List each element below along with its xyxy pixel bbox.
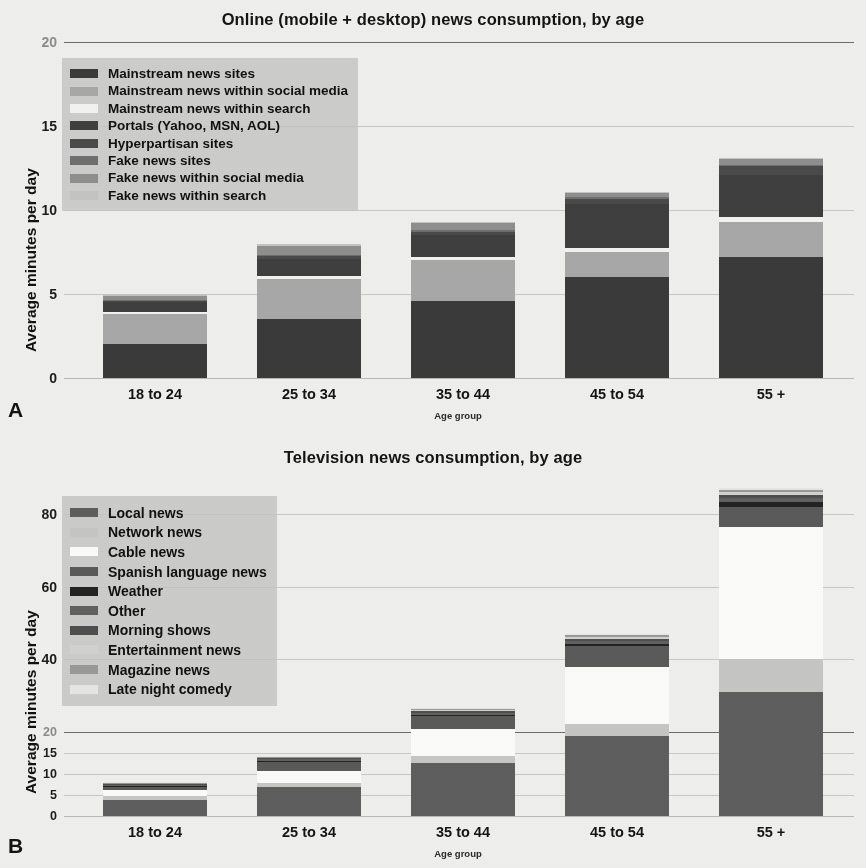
panel-b-segment [411, 729, 515, 732]
panel-a-online-news: Online (mobile + desktop) news consumpti… [0, 0, 866, 434]
panel-a-segment [257, 246, 361, 254]
panel-b-ytick-lower-15: 15 [43, 746, 57, 760]
panel-a-segment [719, 158, 823, 159]
panel-a-segment [719, 166, 823, 174]
panel-b-segment [565, 637, 669, 639]
panel-b-segment [719, 692, 823, 732]
panel-b-legend-item: Weather [70, 581, 267, 601]
panel-a-segment [103, 344, 207, 378]
panel-a-segment [103, 301, 207, 303]
panel-b-segment [719, 498, 823, 502]
panel-b-segment [411, 713, 515, 715]
panel-a-segment [103, 312, 207, 315]
panel-a-bar-4[interactable] [719, 42, 823, 378]
panel-b-legend-swatch [70, 665, 98, 674]
panel-b-legend-item: Late night comedy [70, 679, 267, 699]
panel-a-segment [565, 252, 669, 277]
panel-a-segment [103, 314, 207, 344]
panel-b-legend-label: Entertainment news [108, 643, 241, 657]
panel-a-legend-swatch [70, 121, 98, 130]
panel-b-legend-swatch [70, 508, 98, 517]
panel-a-legend-swatch [70, 191, 98, 200]
panel-a-segment [411, 260, 515, 300]
panel-b-category-label-0: 18 to 24 [93, 824, 217, 840]
panel-b-bar-4[interactable] [719, 478, 823, 816]
panel-b-bar-3[interactable] [565, 478, 669, 816]
panel-b-segment [411, 716, 515, 729]
panel-b-segment [411, 732, 515, 756]
panel-a-segment [565, 277, 669, 378]
panel-a-segment [719, 159, 823, 165]
panel-b-ytick-lower-0: 0 [50, 809, 57, 823]
panel-a-segment [719, 175, 823, 217]
panel-a-segment [411, 223, 515, 230]
panel-a-ytick-20: 20 [41, 34, 57, 50]
panel-a-segment [411, 257, 515, 260]
panel-a-legend-swatch [70, 87, 98, 96]
panel-b-legend-label: Cable news [108, 545, 185, 559]
panel-a-legend-label: Fake news within social media [108, 171, 304, 185]
panel-a-bar-3[interactable] [565, 42, 669, 378]
panel-b-segment [257, 757, 361, 758]
panel-a-segment [719, 165, 823, 167]
panel-b-ytick-lower-20: 20 [43, 725, 57, 739]
panel-b-segment [103, 782, 207, 783]
panel-b-segment [411, 708, 515, 709]
panel-a-legend-item: Fake news sites [70, 152, 348, 169]
panel-b-legend-label: Magazine news [108, 663, 210, 677]
panel-a-category-label-2: 35 to 44 [401, 386, 525, 402]
panel-b-legend-item: Cable news [70, 542, 267, 562]
panel-b-segment [565, 667, 669, 723]
panel-b-category-label-4: 55 + [709, 824, 833, 840]
panel-b-segment [565, 644, 669, 647]
panel-b-segment [411, 756, 515, 763]
panel-b-segment [257, 771, 361, 783]
panel-b-legend-label: Morning shows [108, 623, 211, 637]
panel-b-legend-item: Entertainment news [70, 640, 267, 660]
panel-b-segment [103, 783, 207, 784]
panel-b-legend-swatch [70, 685, 98, 694]
panel-a-bar-2[interactable] [411, 42, 515, 378]
panel-b-segment [565, 736, 669, 816]
panel-a-segment [257, 256, 361, 259]
panel-b-segment [411, 763, 515, 816]
panel-b-category-label-2: 35 to 44 [401, 824, 525, 840]
panel-b-segment [257, 761, 361, 763]
panel-a-letter: A [8, 398, 23, 422]
panel-a-segment [719, 257, 823, 378]
panel-b-legend-swatch [70, 547, 98, 556]
panel-b-legend-item: Network news [70, 523, 267, 543]
panel-a-segment [565, 248, 669, 252]
panel-a-legend-swatch [70, 174, 98, 183]
panel-b-ytick-upper-80: 80 [41, 506, 57, 522]
panel-a-x-axis-label: Age group [398, 410, 518, 421]
panel-b-segment [257, 758, 361, 759]
panel-a-legend-item: Fake news within search [70, 187, 348, 204]
panel-a-segment [411, 235, 515, 257]
panel-b-x-axis-label: Age group [398, 848, 518, 859]
panel-a-gridline-0: 0 [64, 378, 854, 379]
panel-b-segment [565, 634, 669, 635]
panel-b-ytick-lower-10: 10 [43, 767, 57, 781]
panel-a-legend-label: Mainstream news within search [108, 102, 311, 116]
panel-b-segment [103, 796, 207, 799]
panel-b-legend-label: Network news [108, 525, 202, 539]
panel-b-segment [257, 757, 361, 758]
panel-b-segment [565, 646, 669, 667]
panel-b-legend-swatch [70, 587, 98, 596]
panel-b-category-label-1: 25 to 34 [247, 824, 371, 840]
panel-a-category-label-1: 25 to 34 [247, 386, 371, 402]
panel-a-segment [565, 199, 669, 204]
panel-a-legend-label: Portals (Yahoo, MSN, AOL) [108, 119, 280, 133]
panel-b-segment [103, 787, 207, 791]
panel-b-title: Television news consumption, by age [0, 448, 866, 467]
panel-b-segment [411, 709, 515, 710]
panel-b-segment [103, 785, 207, 786]
panel-a-legend-item: Mainstream news within search [70, 100, 348, 117]
panel-a-legend-item: Portals (Yahoo, MSN, AOL) [70, 117, 348, 134]
panel-a-legend-item: Mainstream news within social media [70, 82, 348, 99]
panel-b-bar-2[interactable] [411, 478, 515, 816]
panel-b-legend-swatch [70, 606, 98, 615]
panel-a-segment [719, 222, 823, 257]
panel-a-legend: Mainstream news sitesMainstream news wit… [62, 58, 358, 211]
